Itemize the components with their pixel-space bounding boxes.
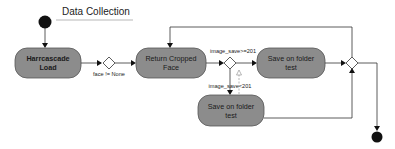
edge-label-face-check: face != None [93,71,125,77]
start-node [39,16,52,29]
arrowhead [374,126,380,131]
node-label: test [285,63,297,72]
end-node [372,132,383,143]
arrowhead [341,60,346,66]
arrowhead [219,60,224,66]
arrowhead [167,43,173,48]
arrowhead [227,90,233,95]
decision-image-save [224,57,236,69]
node-label: Load [39,63,56,72]
node-harrcascade-load[interactable]: Harrcascade Load [15,48,81,78]
activity-diagram: Data Collection Harrcascade Load face !=… [0,0,395,149]
edge-merge-to-end [358,63,377,128]
node-label: Save on folder [268,54,315,63]
node-label: Return Cropped [145,54,196,63]
node-save-folder-bottom[interactable]: Save on folder test [198,95,264,126]
edge-save-bottom-to-merge [264,72,352,118]
diagram-title: Data Collection [62,6,130,17]
node-return-cropped-face[interactable]: Return Cropped Face [136,48,206,78]
node-label: test [225,111,237,120]
arrowhead [97,60,102,66]
decision-face-check [103,57,115,69]
arrowhead [252,60,257,66]
merge-node [346,57,358,69]
node-label: Face [163,63,179,72]
node-label: Save on folder [208,102,255,111]
node-label: Harrcascade [26,54,69,63]
arrowhead [237,70,242,75]
arrowhead [349,68,355,73]
arrowhead [131,60,136,66]
edge-label-save-retry: image_save<201 [209,83,252,89]
edge-label-save-ok: image_save>=201 [210,48,256,54]
node-save-folder-top[interactable]: Save on folder test [257,48,325,78]
arrowhead [42,43,48,48]
